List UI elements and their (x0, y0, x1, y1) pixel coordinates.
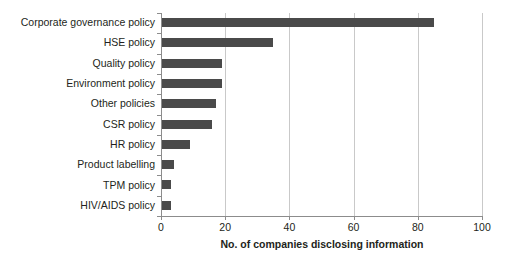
x-axis-tick-label: 80 (412, 221, 424, 233)
category-label: HR policy (9, 139, 161, 150)
category-label: Quality policy (9, 58, 161, 69)
x-axis-tick-label: 60 (348, 221, 360, 233)
x-axis-tick (482, 216, 483, 220)
bar (161, 180, 171, 189)
x-axis-tick (289, 216, 290, 220)
bar (161, 18, 434, 27)
bar (161, 120, 212, 129)
bar-row (161, 33, 482, 52)
category-label: Other policies (9, 98, 161, 109)
category-label: Corporate governance policy (9, 17, 161, 28)
bar-row (161, 175, 482, 194)
bar (161, 140, 190, 149)
x-axis-tick (418, 216, 419, 220)
plot-area (161, 13, 482, 216)
gridline (482, 13, 483, 216)
x-axis-title: No. of companies disclosing information (161, 238, 483, 250)
x-axis-tick-label: 0 (158, 221, 164, 233)
bar (161, 160, 174, 169)
x-axis-tick-label: 40 (284, 221, 296, 233)
bar (161, 79, 222, 88)
category-label: HSE policy (9, 37, 161, 48)
y-axis-category-labels: Corporate governance policyHSE policyQua… (0, 13, 161, 216)
bar (161, 201, 171, 210)
bar (161, 99, 216, 108)
category-label: HIV/AIDS policy (9, 200, 161, 211)
x-axis-tick-label: 100 (473, 221, 491, 233)
bar-row (161, 54, 482, 73)
x-axis-tick (354, 216, 355, 220)
x-axis-tick-label: 20 (219, 221, 231, 233)
bar-row (161, 74, 482, 93)
bar-chart-figure: Corporate governance policyHSE policyQua… (0, 0, 508, 258)
x-axis-tick (161, 216, 162, 220)
x-axis-tick (225, 216, 226, 220)
category-label: CSR policy (9, 119, 161, 130)
category-label: TPM policy (9, 180, 161, 191)
y-axis-line (161, 13, 162, 217)
bar-row (161, 155, 482, 174)
category-label: Product labelling (9, 159, 161, 170)
bar-row (161, 196, 482, 215)
bar-row (161, 135, 482, 154)
category-label: Environment policy (9, 78, 161, 89)
bar-row (161, 115, 482, 134)
bar-row (161, 13, 482, 32)
bar (161, 38, 273, 47)
bar (161, 59, 222, 68)
bar-row (161, 94, 482, 113)
x-axis-line (161, 216, 483, 217)
